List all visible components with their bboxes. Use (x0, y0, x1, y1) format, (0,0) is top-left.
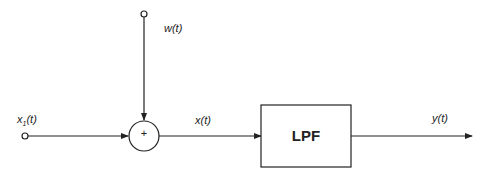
lpf-label: LPF (261, 127, 351, 144)
block-diagram: x1(t) w(t) + x(t) LPF y(t) (0, 0, 485, 176)
input-label: x1(t) (17, 113, 37, 127)
noise-terminal (141, 11, 147, 17)
y-label: y(t) (432, 112, 448, 124)
x-label: x(t) (195, 114, 211, 126)
noise-label: w(t) (164, 22, 182, 34)
sum-symbol: + (137, 127, 151, 139)
input-label-rest: (t) (26, 113, 36, 125)
input-terminal (22, 133, 28, 139)
diagram-lines (0, 0, 485, 176)
